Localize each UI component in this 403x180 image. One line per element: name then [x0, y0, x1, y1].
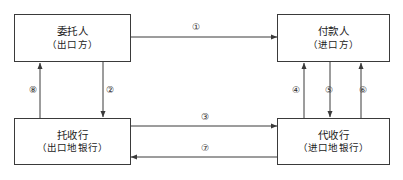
node-principal-title: 委托人 [57, 25, 88, 38]
node-collecting-bank-subtitle: （进口地银行） [298, 142, 369, 154]
edge-label-5: ⑤ [325, 86, 333, 95]
node-remitting-bank-subtitle: （出口地银行） [37, 142, 108, 154]
node-collecting-bank[interactable]: 代收行 （进口地银行） [277, 118, 390, 165]
edge-label-4: ④ [292, 86, 300, 95]
edge-label-7: ⑦ [201, 144, 209, 153]
node-payer-subtitle: （进口方） [308, 39, 359, 51]
edge-label-8: ⑧ [29, 86, 37, 95]
edge-label-6: ⑥ [359, 86, 367, 95]
node-principal[interactable]: 委托人 （出口方） [14, 14, 131, 62]
node-principal-subtitle: （出口方） [47, 39, 98, 51]
edge-label-2: ② [106, 86, 114, 95]
node-payer-title: 付款人 [318, 25, 349, 38]
edge-label-1: ① [192, 23, 200, 32]
node-remitting-bank[interactable]: 托收行 （出口地银行） [14, 118, 131, 165]
node-payer[interactable]: 付款人 （进口方） [277, 14, 390, 62]
collection-flow-diagram: 委托人 （出口方） 付款人 （进口方） 托收行 （出口地银行） 代收行 （进口地… [0, 0, 403, 180]
node-remitting-bank-title: 托收行 [57, 129, 88, 142]
edge-label-3: ③ [201, 113, 209, 122]
node-collecting-bank-title: 代收行 [318, 129, 349, 142]
